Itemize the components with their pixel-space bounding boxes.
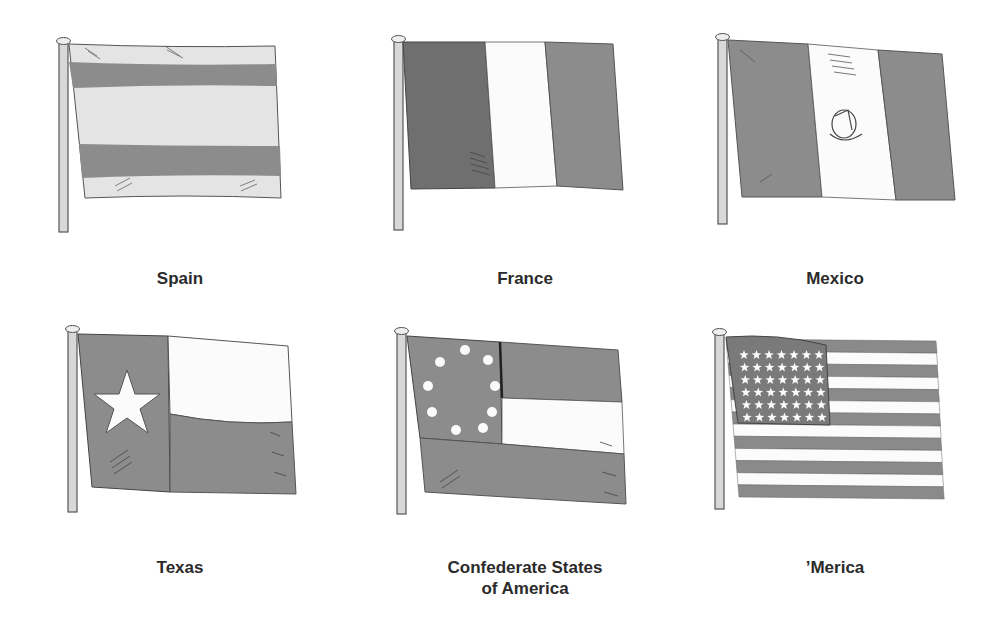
- flag-label-csa: Confederate States of America: [395, 557, 655, 599]
- spain-flag-icon: [55, 36, 295, 236]
- flag-label-spain: Spain: [50, 268, 310, 289]
- flag-label-texas: Texas: [50, 557, 310, 578]
- confederate-flag-icon: [390, 322, 640, 517]
- flag-label-csa-line2: of America: [395, 578, 655, 599]
- flag-label-mexico: Mexico: [705, 268, 965, 289]
- usa-flag-icon: [708, 325, 968, 520]
- mexico-flag-icon: [710, 32, 970, 232]
- flag-label-usa: ’Merica: [705, 557, 965, 578]
- flag-label-france: France: [395, 268, 655, 289]
- texas-flag-icon: [60, 322, 310, 517]
- france-flag-icon: [385, 32, 635, 232]
- flag-label-csa-line1: Confederate States: [395, 557, 655, 578]
